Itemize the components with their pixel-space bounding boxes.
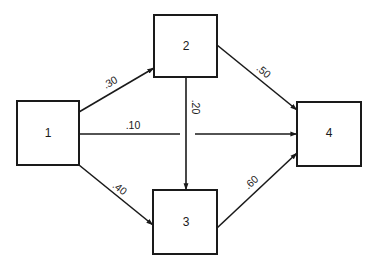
edge-label-1-3: .40 xyxy=(111,179,130,198)
edge-1-to-3: .40 xyxy=(79,165,153,225)
node-4: 4 xyxy=(297,102,361,166)
edge-line-2-4 xyxy=(217,45,297,110)
edge-line-3-4 xyxy=(217,153,297,228)
node-label-2: 2 xyxy=(183,39,190,53)
edge-label-1-2: .30 xyxy=(101,73,120,91)
edge-3-to-4: .60 xyxy=(217,153,297,228)
edge-2-to-4: .50 xyxy=(217,45,297,110)
edge-1-to-2: .30 xyxy=(79,68,154,112)
node-label-1: 1 xyxy=(45,126,52,140)
edge-label-1-4: .10 xyxy=(126,119,141,131)
node-label-4: 4 xyxy=(326,126,333,140)
edge-label-3-4: .60 xyxy=(242,173,261,192)
edge-line-1-2 xyxy=(79,68,154,112)
edge-line-1-3 xyxy=(79,165,153,225)
node-2: 2 xyxy=(154,15,217,77)
node-1: 1 xyxy=(17,101,79,165)
edge-label-2-3: .20 xyxy=(190,100,202,115)
node-label-3: 3 xyxy=(183,215,190,229)
node-3: 3 xyxy=(153,190,217,254)
edge-1-to-4: .10 xyxy=(79,119,297,134)
flow-diagram: .30 .10 .40 .50 .20 .60 1 2 3 4 xyxy=(0,0,380,271)
